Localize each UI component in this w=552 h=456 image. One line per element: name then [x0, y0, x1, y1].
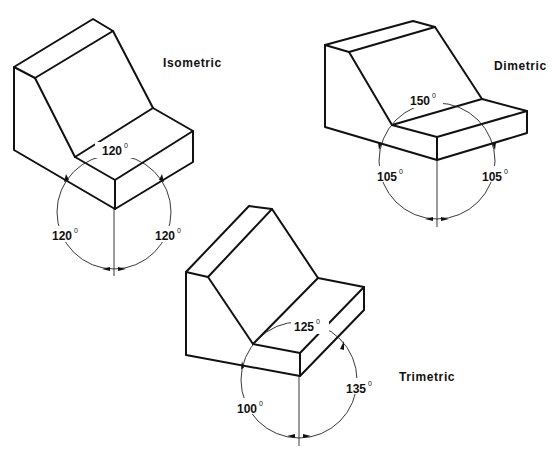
degree-symbol: 0: [368, 380, 372, 387]
degree-symbol: 0: [74, 227, 78, 234]
isometric-view: 120 0 120 0 120 0 Isometric: [14, 19, 222, 276]
trimetric-top-angle: 125: [294, 320, 314, 334]
trimetric-block: [186, 206, 364, 376]
degree-symbol: 0: [177, 227, 181, 234]
dimetric-block: [325, 21, 527, 160]
isometric-right-angle: 120: [155, 229, 175, 243]
trimetric-view: 125 0 100 0 135 0 Trimetric: [186, 206, 455, 446]
dimetric-top-angle: 150: [410, 94, 430, 108]
trimetric-label: Trimetric: [399, 370, 455, 384]
isometric-label: Isometric: [163, 56, 222, 70]
degree-symbol: 0: [399, 168, 403, 175]
isometric-top-angle: 120: [102, 144, 122, 158]
degree-symbol: 0: [124, 142, 128, 149]
dimetric-right-angle: 105: [482, 170, 502, 184]
degree-symbol: 0: [316, 318, 320, 325]
degree-symbol: 0: [259, 400, 263, 407]
dimetric-left-angle: 105: [377, 170, 397, 184]
axonometric-projections-diagram: 120 0 120 0 120 0 Isometric 1: [0, 0, 552, 456]
trimetric-right-angle: 135: [346, 382, 366, 396]
dimetric-view: 150 0 105 0 105 0 Dimetric: [325, 21, 547, 227]
isometric-left-angle: 120: [52, 229, 72, 243]
dimetric-label: Dimetric: [494, 59, 547, 73]
isometric-block: [14, 19, 193, 209]
degree-symbol: 0: [504, 168, 508, 175]
trimetric-left-angle: 100: [237, 402, 257, 416]
degree-symbol: 0: [432, 92, 436, 99]
